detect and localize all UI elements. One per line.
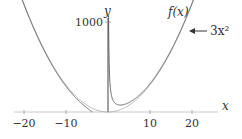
x-tick-label: 10 [143,117,157,130]
y-axis-label: y [103,4,111,18]
annotation-arrowhead [189,28,195,34]
x-tick-label: 20 [185,117,199,130]
y-tick-label: 1000 [75,16,103,29]
fx-label: f(x) [167,5,189,19]
x-tick-label: −10 [54,117,77,130]
x-tick-label: −20 [12,117,35,130]
x-axis-label: x [222,99,229,113]
chart: −20−1010201000 x y f(x) 3x² [0,0,242,139]
3x2-label: 3x² [210,24,229,38]
